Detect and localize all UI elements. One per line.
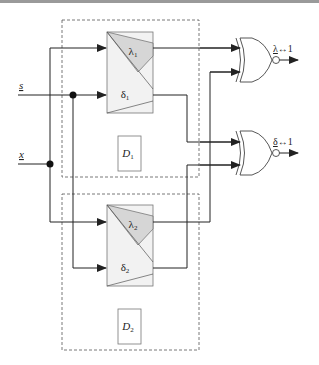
- lambda-output-label: λ↔1: [273, 43, 293, 54]
- delta-output-label: δ↔1: [273, 136, 293, 147]
- xnor-lambda-output-bubble: [273, 57, 280, 64]
- xnor-delta-output-bubble: [273, 150, 280, 157]
- gate-overlay: λ↔1 δ↔1: [0, 0, 319, 365]
